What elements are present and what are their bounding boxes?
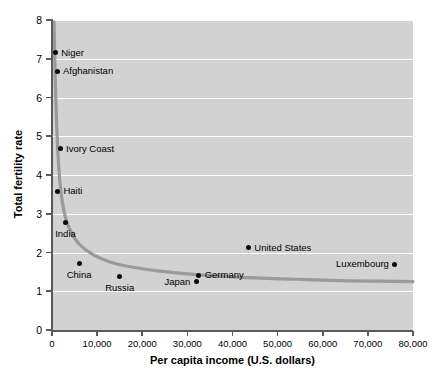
x-tick-label-50000: 50,000: [263, 338, 292, 349]
x-tick-label-20000: 20,000: [128, 338, 157, 349]
y-tick-8: [46, 19, 51, 21]
x-tick-label-70000: 70,000: [353, 338, 382, 349]
data-point-india[interactable]: [63, 220, 68, 225]
data-point-label-japan: Japan: [165, 277, 191, 287]
data-point-label-russia: Russia: [105, 283, 134, 293]
y-tick-label-6: 6: [22, 93, 42, 103]
y-tick-label-1: 1: [22, 286, 42, 296]
plot-area: NigerAfghanistanIvory CoastHaitiIndiaChi…: [52, 20, 413, 330]
data-point-label-luxembourg: Luxembourg: [336, 259, 389, 269]
y-tick-3: [46, 213, 51, 215]
x-tick-label-60000: 60,000: [308, 338, 337, 349]
x-tick-label-10000: 10,000: [83, 338, 112, 349]
y-tick-5: [46, 135, 51, 137]
y-axis-line: [51, 19, 53, 331]
data-point-label-united-states: United States: [254, 243, 311, 253]
x-tick-20000: [141, 331, 143, 336]
y-axis-title: Total fertility rate: [12, 84, 24, 264]
x-tick-30000: [187, 331, 189, 336]
data-point-china[interactable]: [77, 261, 82, 266]
x-tick-10000: [96, 331, 98, 336]
data-point-japan[interactable]: [194, 279, 199, 284]
data-point-germany[interactable]: [196, 273, 201, 278]
x-tick-70000: [367, 331, 369, 336]
y-tick-label-3: 3: [22, 209, 42, 219]
y-tick-label-4: 4: [22, 170, 42, 180]
x-tick-60000: [322, 331, 324, 336]
x-axis-title: Per capita income (U.S. dollars): [52, 354, 413, 366]
y-tick-label-7: 7: [22, 54, 42, 64]
y-tick-label-5: 5: [22, 131, 42, 141]
x-tick-label-80000: 80,000: [398, 338, 427, 349]
y-tick-6: [46, 97, 51, 99]
x-tick-label-0: 0: [49, 338, 54, 349]
data-point-label-india: India: [55, 229, 76, 239]
x-tick-label-40000: 40,000: [218, 338, 247, 349]
data-point-label-china: China: [67, 270, 92, 280]
y-tick-label-0: 0: [22, 325, 42, 335]
y-tick-1: [46, 290, 51, 292]
y-tick-7: [46, 58, 51, 60]
data-point-label-afghanistan: Afghanistan: [63, 66, 113, 76]
data-point-afghanistan[interactable]: [55, 69, 60, 74]
x-tick-label-30000: 30,000: [173, 338, 202, 349]
data-point-label-germany: Germany: [205, 270, 244, 280]
data-point-label-ivory-coast: Ivory Coast: [66, 144, 114, 154]
scatter-plot-figure: NigerAfghanistanIvory CoastHaitiIndiaChi…: [0, 0, 439, 376]
y-tick-label-8: 8: [22, 15, 42, 25]
data-point-label-niger: Niger: [61, 48, 84, 58]
x-tick-0: [51, 331, 53, 336]
x-tick-50000: [277, 331, 279, 336]
data-point-label-haiti: Haiti: [63, 186, 82, 196]
data-point-ivory-coast[interactable]: [58, 146, 63, 151]
x-tick-80000: [412, 331, 414, 336]
y-tick-4: [46, 174, 51, 176]
y-tick-2: [46, 252, 51, 254]
x-tick-40000: [232, 331, 234, 336]
data-point-russia[interactable]: [117, 274, 122, 279]
data-point-haiti[interactable]: [55, 189, 60, 194]
y-tick-label-2: 2: [22, 248, 42, 258]
